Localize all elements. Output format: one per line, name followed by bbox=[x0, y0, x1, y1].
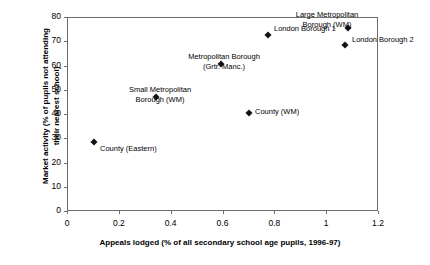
data-point-label-line-1: Small Metropolitan bbox=[129, 85, 191, 95]
scatter-chart-figure: Market activity (% of pupils not attendi… bbox=[0, 0, 430, 265]
x-axis-title: Appeals lodged (% of all secondary schoo… bbox=[40, 238, 400, 247]
data-point-label-line-1: County (WM) bbox=[255, 107, 299, 117]
data-point-label-line-1: County (Eastern) bbox=[100, 144, 157, 154]
data-point-label-line-1: Metropolitan Borough bbox=[188, 52, 260, 62]
data-point-label: London Borough 2 bbox=[352, 35, 414, 45]
data-point-label-line-2: Borough (WM) bbox=[129, 95, 191, 105]
data-point-label-line-1: Large Metropolitan bbox=[296, 10, 359, 20]
data-point-label: Large MetropolitanBorough (WM) bbox=[296, 10, 359, 30]
data-point-label: County (WM) bbox=[255, 107, 299, 117]
annotation-layer: County (Eastern)Small MetropolitanBoroug… bbox=[0, 0, 430, 265]
data-point-label-line-1: London Borough 2 bbox=[352, 35, 414, 45]
data-point-label: Metropolitan Borough(Grtr. Manc.) bbox=[188, 52, 260, 72]
data-point-label: County (Eastern) bbox=[100, 144, 157, 154]
data-point-label-line-2: (Grtr. Manc.) bbox=[188, 62, 260, 72]
data-point-label-line-2: Borough (WM) bbox=[296, 20, 359, 30]
data-point-label: Small MetropolitanBorough (WM) bbox=[129, 85, 191, 105]
